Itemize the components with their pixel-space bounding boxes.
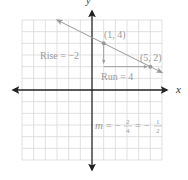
slope-eq2: = — [135, 120, 141, 131]
line-through-points — [57, 20, 162, 73]
rise-label: Rise = −2 — [40, 50, 79, 61]
point-5-2 — [148, 65, 152, 69]
y-axis-label: y — [85, 0, 91, 6]
x-axis-label: x — [175, 83, 181, 95]
slope-num2: 1 — [156, 118, 160, 126]
slope-den1: 4 — [126, 127, 130, 135]
point-1-4 — [102, 41, 106, 45]
slope-minus2: − — [144, 120, 150, 131]
slope-minus1: − — [115, 120, 121, 131]
point-label-1-4: (1, 4) — [104, 29, 126, 41]
slope-num1: 2 — [126, 118, 130, 126]
run-label: Run = 4 — [101, 71, 133, 82]
slope-diagram: x y (1, 4) (5, 2) Rise = −2 Run = 4 m = … — [0, 0, 188, 180]
slope-m: m — [95, 119, 103, 131]
point-label-5-2: (5, 2) — [140, 52, 162, 64]
slope-den2: 2 — [156, 127, 160, 135]
slope-eq1: = — [106, 120, 112, 131]
slope-formula: m = − 2 4 = − 1 2 — [95, 118, 162, 135]
